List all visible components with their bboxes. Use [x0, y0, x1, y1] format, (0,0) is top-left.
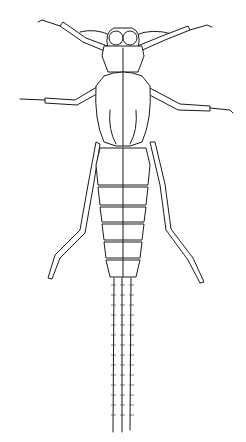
head	[107, 28, 139, 48]
abdomen	[96, 148, 150, 277]
nymph-drawing	[0, 0, 246, 442]
insect-illustration	[0, 0, 246, 442]
wing-pads	[96, 48, 151, 146]
cerci	[111, 278, 134, 432]
